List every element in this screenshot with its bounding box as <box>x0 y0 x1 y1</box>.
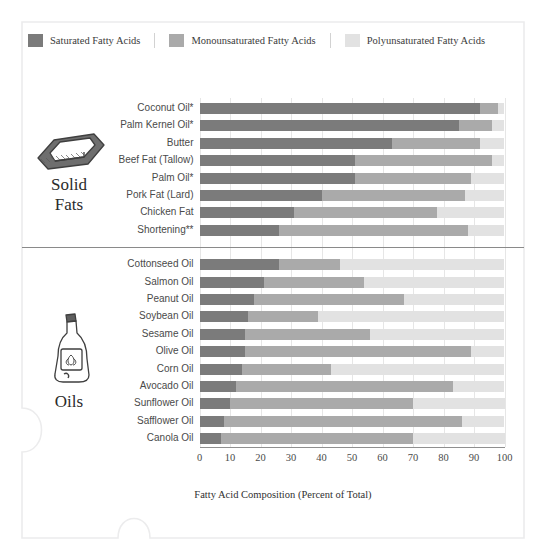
bar-row <box>200 364 505 375</box>
x-axis-tick: 0 <box>185 452 215 463</box>
bar-row-label: Coconut Oil* <box>64 102 194 113</box>
x-axis-tick: 90 <box>459 452 489 463</box>
bar-row <box>200 398 505 409</box>
bar-segment <box>200 155 356 166</box>
bar-segment <box>200 120 459 131</box>
bar-row-label: Pork Fat (Lard) <box>64 189 194 200</box>
bar-segment <box>200 277 264 288</box>
bar-row-label: Shortening** <box>64 224 194 235</box>
x-axis-label: Fatty Acid Composition (Percent of Total… <box>10 489 546 500</box>
bar-segment <box>245 329 370 340</box>
bar-segment <box>221 433 413 444</box>
bar-segment <box>459 120 493 131</box>
bar-row-label: Palm Kernel Oil* <box>64 119 194 130</box>
bar-segment <box>279 225 468 236</box>
bar-segment <box>404 294 505 305</box>
grid-line <box>505 98 506 447</box>
bar-segment <box>200 416 224 427</box>
group-divider <box>22 247 524 248</box>
bar-segment <box>264 277 365 288</box>
grid-line <box>200 98 201 447</box>
bar-segment <box>279 259 340 270</box>
bar-row-label: Avocado Oil <box>64 380 194 391</box>
bar-segment <box>364 277 504 288</box>
grid-line <box>230 98 231 447</box>
bar-segment <box>200 225 279 236</box>
bar-row <box>200 190 505 201</box>
x-axis-tick: 70 <box>398 452 428 463</box>
bar-row <box>200 346 505 357</box>
x-axis-tick: 20 <box>246 452 276 463</box>
bar-segment <box>200 190 322 201</box>
bar-row <box>200 225 505 236</box>
bar-row-label: Salmon Oil <box>64 276 194 287</box>
bar-segment <box>331 364 505 375</box>
bar-row <box>200 173 505 184</box>
bar-segment <box>392 138 480 149</box>
bar-row <box>200 120 505 131</box>
bar-segment <box>322 190 465 201</box>
x-axis-tick: 80 <box>429 452 459 463</box>
bar-segment <box>200 433 221 444</box>
bar-row-label: Soybean Oil <box>64 310 194 321</box>
bar-segment <box>355 173 471 184</box>
bar-segment <box>200 207 295 218</box>
chart-card: Saturated Fatty Acids Monounsaturated Fa… <box>0 0 546 560</box>
bar-segment <box>242 364 330 375</box>
bar-segment <box>340 259 505 270</box>
grid-line <box>444 98 445 447</box>
bar-row <box>200 381 505 392</box>
bar-segment <box>224 416 462 427</box>
bar-row <box>200 277 505 288</box>
grid-line <box>322 98 323 447</box>
bar-segment <box>471 346 505 357</box>
bar-segment <box>465 190 505 201</box>
x-axis-tick: 100 <box>490 452 520 463</box>
grid-line <box>474 98 475 447</box>
bar-segment <box>498 103 504 114</box>
bar-segment <box>200 398 231 409</box>
bar-segment <box>355 155 492 166</box>
bar-segment <box>254 294 403 305</box>
bar-segment <box>453 381 505 392</box>
bar-segment <box>200 311 249 322</box>
bar-row <box>200 155 505 166</box>
bar-row-label: Palm Oil* <box>64 172 194 183</box>
bar-segment <box>200 346 246 357</box>
bar-row <box>200 433 505 444</box>
bar-row <box>200 207 505 218</box>
bar-segment <box>200 381 237 392</box>
bar-segment <box>200 103 481 114</box>
bar-segment <box>471 173 505 184</box>
bar-segment <box>462 416 505 427</box>
bar-segment <box>318 311 504 322</box>
grid-line <box>413 98 414 447</box>
bar-row-label: Sunflower Oil <box>64 397 194 408</box>
bar-segment <box>480 138 504 149</box>
bar-row-label: Peanut Oil <box>64 293 194 304</box>
x-axis-line <box>200 447 505 448</box>
bar-segment <box>468 225 505 236</box>
x-axis-tick: 10 <box>215 452 245 463</box>
bar-segment <box>437 207 504 218</box>
bar-row <box>200 416 505 427</box>
bar-row-label: Butter <box>64 137 194 148</box>
bar-segment <box>200 173 356 184</box>
bar-segment <box>480 103 498 114</box>
bar-segment <box>200 329 246 340</box>
x-axis-tick: 30 <box>276 452 306 463</box>
bar-row <box>200 259 505 270</box>
bar-segment <box>294 207 437 218</box>
bar-row-label: Sesame Oil <box>64 328 194 339</box>
grid-line <box>261 98 262 447</box>
bar-segment <box>413 433 505 444</box>
bar-row <box>200 103 505 114</box>
bar-row-label: Safflower Oil <box>64 415 194 426</box>
bar-row <box>200 138 505 149</box>
plot-area: 0102030405060708090100Coconut Oil*Palm K… <box>0 0 546 560</box>
bar-row-label: Canola Oil <box>64 432 194 443</box>
bar-row-label: Chicken Fat <box>64 206 194 217</box>
bar-segment <box>492 155 504 166</box>
bar-segment <box>200 138 392 149</box>
bar-row <box>200 329 505 340</box>
